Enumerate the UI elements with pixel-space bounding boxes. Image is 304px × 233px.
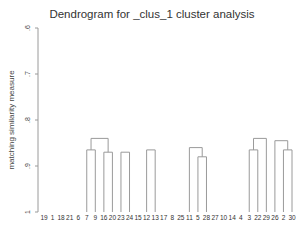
leaf-label: 24 — [126, 214, 134, 221]
leaf-label: 26 — [271, 214, 279, 221]
leaf-label: 6 — [76, 214, 80, 221]
leaf-label: 3 — [247, 214, 251, 221]
leaf-label: 14 — [229, 214, 237, 221]
y-axis-label: matching similarity measure — [7, 70, 16, 170]
y-tick-label: .7 — [24, 71, 31, 77]
leaf-label: 11 — [186, 214, 193, 221]
leaf-label: 25 — [177, 214, 185, 221]
leaf-label: 2 — [282, 214, 286, 221]
leaf-label: 20 — [109, 214, 117, 221]
leaf-label: 30 — [288, 214, 296, 221]
leaf-label: 23 — [117, 214, 125, 221]
y-tick-label: 1 — [24, 210, 31, 214]
leaf-label: 8 — [170, 214, 174, 221]
leaf-label: 7 — [85, 214, 89, 221]
dendrogram-plot: .6.7.8.91matching similarity measure1911… — [0, 0, 304, 233]
leaf-label: 12 — [143, 214, 151, 221]
leaf-label: 15 — [134, 214, 142, 221]
y-tick-label: .9 — [24, 163, 31, 169]
chart-container: Dendrogram for _clus_1 cluster analysis … — [0, 0, 304, 233]
leaf-label: 9 — [93, 214, 97, 221]
leaf-label: 4 — [239, 214, 243, 221]
y-tick-label: .6 — [24, 25, 31, 31]
leaf-label: 17 — [160, 214, 168, 221]
leaf-label: 5 — [196, 214, 200, 221]
leaf-label: 16 — [100, 214, 108, 221]
leaf-label: 10 — [220, 214, 228, 221]
leaf-label: 27 — [211, 214, 219, 221]
leaf-label: 28 — [203, 214, 211, 221]
leaf-label: 22 — [254, 214, 262, 221]
leaf-label: 19 — [40, 214, 48, 221]
leaf-label: 13 — [152, 214, 160, 221]
y-tick-label: .8 — [24, 117, 31, 123]
leaf-label: 29 — [263, 214, 271, 221]
leaf-label: 1 — [51, 214, 55, 221]
leaf-label: 21 — [66, 214, 74, 221]
leaf-label: 18 — [57, 214, 65, 221]
